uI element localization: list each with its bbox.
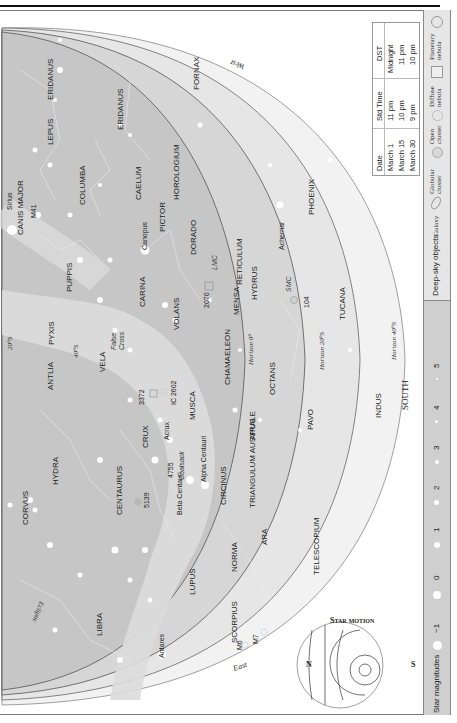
label-eridanus-1: ERIDANUS xyxy=(46,59,55,100)
magnitude-label: 2 xyxy=(432,486,441,490)
label-antares: Antares xyxy=(158,634,165,658)
label-lupus: LUPUS xyxy=(188,568,197,595)
magnitude-label: 4 xyxy=(432,406,441,410)
label-centaurus: CENTAURUS xyxy=(115,466,124,515)
magnitude-label: 1 xyxy=(432,528,441,532)
label-carina: CARINA xyxy=(138,277,147,307)
label-sirius: Sirius xyxy=(6,192,13,210)
row1-dst: Midnight xyxy=(386,45,395,73)
label-norma: NORMA xyxy=(230,542,239,572)
label-vela: VELA xyxy=(98,352,107,372)
label-horizon-0: Horizon 0° xyxy=(247,334,255,365)
label-coalsack: Coalsack xyxy=(178,451,185,480)
label-musca: MUSCA xyxy=(188,391,197,420)
label-reticulum: RETICULUM xyxy=(235,238,244,285)
open-cluster-icon xyxy=(432,110,443,121)
label-ic-2602: IC 2602 xyxy=(170,380,177,405)
label-caelum: CAELUM xyxy=(134,167,143,200)
label-4755: 4755 xyxy=(167,462,174,478)
label-pyxis: PYXIS xyxy=(47,321,56,345)
label-libra: LIBRA xyxy=(95,613,104,636)
label-horizon-20: Horizon 20°S xyxy=(318,332,326,370)
magnitude-dot-0 xyxy=(433,591,441,599)
deep-sky-legend: Deep-sky objects Galaxy Globular cluster… xyxy=(424,10,450,301)
magnitude-label: 5 xyxy=(432,364,441,368)
label-dorado: DORADO xyxy=(189,220,198,255)
label-104: 104 xyxy=(303,296,310,308)
row3-date: March 30 xyxy=(408,140,417,171)
label-chamaeleon: CHAMAELEON xyxy=(223,329,232,385)
star-motion-n: N xyxy=(306,660,312,669)
label-horizon-40: Horizon 40°S xyxy=(390,322,398,360)
label-puppis: PUPPIS xyxy=(65,263,74,292)
magnitude-dot-neg1 xyxy=(433,641,442,650)
magnitude-label: 0 xyxy=(432,576,441,580)
label-octans: OCTANS xyxy=(268,362,277,395)
label-eridanus-2: ERIDANUS xyxy=(116,89,125,130)
magnitude-label: 3 xyxy=(432,446,441,450)
legend-galaxy: Galaxy xyxy=(433,216,440,236)
star-motion-s: S xyxy=(411,660,415,669)
galaxy-icon xyxy=(429,195,443,211)
label-5139: 5139 xyxy=(143,492,150,508)
label-achernar: Achernar xyxy=(278,222,285,250)
label-fornax: FORNAX xyxy=(192,57,201,90)
legend-globular-cluster: Globular cluster xyxy=(429,168,443,194)
label-horologium: HOROLOGIUM xyxy=(172,144,181,200)
label-lepus: LEPUS xyxy=(46,119,55,145)
magnitude-dot-2 xyxy=(434,500,439,505)
label-antlia: ANTLIA xyxy=(46,362,55,390)
label-acrux: Acrux xyxy=(163,422,170,440)
header-date: Date xyxy=(375,155,384,171)
date-time-table: Date Std Time DST March 1 11 pm Midnight… xyxy=(372,22,420,176)
label-triangulum-australe: TRIANGULUM AUSTRALE xyxy=(248,411,257,508)
label-pavo: PAVO xyxy=(306,409,315,430)
label-telescopium: TELESCOPIUM xyxy=(312,518,321,575)
globular-cluster-icon xyxy=(432,147,443,158)
legend-open-cluster: Open cluster xyxy=(429,118,443,144)
header-dst: DST xyxy=(375,46,384,61)
label-smc: SMC xyxy=(285,276,292,292)
deep-sky-label: Deep-sky objects xyxy=(431,235,440,296)
label-3372: 3372 xyxy=(138,389,145,405)
magnitude-label: −1 xyxy=(432,624,441,633)
label-latitude-40: 40°S xyxy=(72,345,80,358)
diffuse-nebula-icon xyxy=(431,66,443,78)
legend-diffuse-nebula: Diffuse nebula xyxy=(429,81,443,107)
label-m6: M6 xyxy=(236,640,243,650)
label-m41: M41 xyxy=(30,204,37,218)
divider xyxy=(373,128,419,129)
divider xyxy=(373,78,419,79)
label-latitude-20: 20°S xyxy=(6,337,14,350)
label-hydra: HYDRA xyxy=(51,457,60,485)
label-circinus: CIRCINUS xyxy=(219,466,228,505)
label-hydrus: HYDRUS xyxy=(250,266,259,300)
label-alpha-centauri: Alpha Centauri xyxy=(200,436,207,482)
label-2070: 2070 xyxy=(203,292,210,308)
label-south: SOUTH xyxy=(400,380,410,410)
label-scorpius: SCORPIUS xyxy=(230,601,239,643)
label-phoenix: PHOENIX xyxy=(307,179,316,215)
magnitude-dot-1 xyxy=(434,542,440,548)
label-ara: ARA xyxy=(260,529,269,545)
label-corvus: CORVUS xyxy=(21,491,30,525)
divider xyxy=(384,23,385,175)
magnitude-dot-4 xyxy=(435,420,438,423)
row2-dst: 11 pm xyxy=(397,45,406,65)
row1-date: March 1 xyxy=(386,144,395,171)
label-false-cross: False Cross xyxy=(110,330,126,350)
label-mensa: MENSA xyxy=(232,287,241,315)
label-pictor: PICTOR xyxy=(158,202,167,232)
planetary-nebula-icon xyxy=(431,16,443,28)
row3-dst: 10 pm xyxy=(408,44,417,65)
row3-std: 9 pm xyxy=(408,104,417,121)
label-canopus: Canopus xyxy=(141,222,148,250)
label-m7: M7 xyxy=(252,634,259,644)
row2-std: 10 pm xyxy=(397,100,406,121)
star-magnitudes-label: Star magnitudes xyxy=(432,655,441,713)
header-std-time: Std Time xyxy=(375,91,384,121)
legend-planetary-nebula: Planetary nebula xyxy=(429,34,443,60)
label-indus: INDUS xyxy=(374,393,383,418)
row2-date: March 15 xyxy=(397,140,406,171)
label-tucana: TUCANA xyxy=(338,287,347,320)
